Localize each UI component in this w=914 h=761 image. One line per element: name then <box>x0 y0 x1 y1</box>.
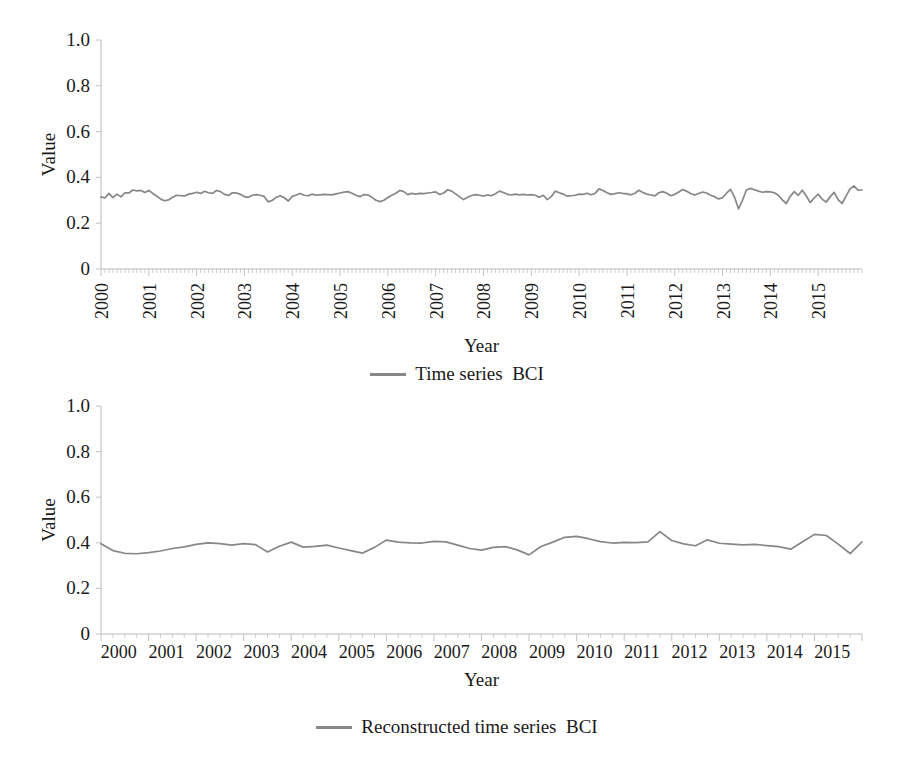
x-tick-label: 2001 <box>148 642 184 662</box>
y-tick-label: 0.2 <box>66 212 90 233</box>
series-path <box>101 186 862 209</box>
x-tick-label: 2008 <box>481 642 517 662</box>
y-tick-label: 0 <box>81 258 91 279</box>
x-tick-label: 2005 <box>339 642 375 662</box>
y-tick-label: 0.2 <box>66 577 90 598</box>
legend-line-swatch-bottom <box>316 726 352 729</box>
x-axis-title: Year <box>464 335 500 356</box>
x-tick-label: 2004 <box>291 642 327 662</box>
x-tick-label: 2014 <box>761 283 781 319</box>
x-tick-label: 2007 <box>434 642 470 662</box>
x-tick-label: 2013 <box>714 283 734 319</box>
y-tick-label: 0.4 <box>66 166 90 187</box>
x-tick-label: 2015 <box>809 283 829 319</box>
y-axis-title: Value <box>38 498 59 541</box>
y-tick-label: 1.0 <box>66 395 90 416</box>
x-tick-label: 2000 <box>101 642 137 662</box>
x-tick-label: 2002 <box>196 642 232 662</box>
legend-line-swatch-top <box>370 373 406 376</box>
y-tick-label: 0.8 <box>66 75 90 96</box>
x-tick-label: 2011 <box>618 283 638 318</box>
x-tick-label: 2010 <box>576 642 612 662</box>
y-tick-label: 1.0 <box>66 29 90 50</box>
legend-bottom: Reconstructed time series BCI <box>0 716 914 738</box>
figure-container: 00.20.40.60.81.0Value2000200120022003200… <box>0 0 914 761</box>
y-tick-label: 0.6 <box>66 486 90 507</box>
y-tick-label: 0.8 <box>66 441 90 462</box>
y-tick-label: 0.6 <box>66 121 90 142</box>
chart-panel-top: 00.20.40.60.81.0Value2000200120022003200… <box>0 0 914 381</box>
x-tick-label: 2013 <box>719 642 755 662</box>
x-tick-label: 2010 <box>570 283 590 319</box>
x-tick-label: 2011 <box>624 642 659 662</box>
x-tick-label: 2006 <box>386 642 422 662</box>
line-chart-top: 00.20.40.60.81.0Value2000200120022003200… <box>0 0 914 381</box>
x-tick-label: 2001 <box>140 283 160 319</box>
chart-panel-bottom: 00.20.40.60.81.0Value2000200120022003200… <box>0 381 914 761</box>
x-tick-label: 2004 <box>283 283 303 319</box>
y-tick-label: 0 <box>81 623 91 644</box>
series-path <box>101 532 862 555</box>
legend-label-bottom: Reconstructed time series BCI <box>361 716 597 738</box>
x-tick-label: 2005 <box>331 283 351 319</box>
x-tick-label: 2012 <box>672 642 708 662</box>
x-axis-title: Year <box>464 669 500 690</box>
y-tick-label: 0.4 <box>66 532 90 553</box>
y-axis-title: Value <box>38 133 59 176</box>
x-tick-label: 2003 <box>235 283 255 319</box>
x-tick-label: 2000 <box>92 283 112 319</box>
x-tick-label: 2012 <box>666 283 686 319</box>
line-chart-bottom: 00.20.40.60.81.0Value2000200120022003200… <box>0 381 914 761</box>
x-tick-label: 2009 <box>522 283 542 319</box>
x-tick-label: 2003 <box>244 642 280 662</box>
x-tick-label: 2002 <box>188 283 208 319</box>
x-tick-label: 2007 <box>427 283 447 319</box>
x-tick-label: 2009 <box>529 642 565 662</box>
x-tick-label: 2006 <box>379 283 399 319</box>
x-tick-label: 2008 <box>474 283 494 319</box>
x-tick-label: 2014 <box>767 642 803 662</box>
x-tick-label: 2015 <box>814 642 850 662</box>
